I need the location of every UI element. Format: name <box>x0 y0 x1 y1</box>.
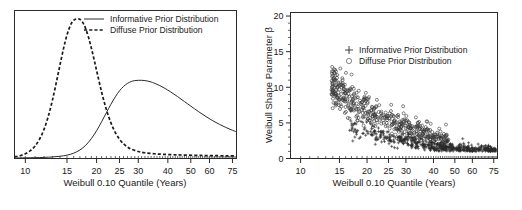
x-tick-label: 20 <box>92 166 102 176</box>
scatter-point-diffuse <box>331 107 334 110</box>
x-tick-label: 30 <box>133 166 143 176</box>
scatter-point-diffuse <box>346 116 349 119</box>
prior-density-svg: 101520253040506075 Informative Prior Dis… <box>0 0 261 210</box>
scatter-point-diffuse <box>341 77 344 80</box>
scatter-point-informative <box>383 140 386 143</box>
prior-density-panel: 101520253040506075 Informative Prior Dis… <box>0 0 261 210</box>
scatter-point-diffuse <box>362 124 365 127</box>
scatter-point-diffuse <box>375 98 378 101</box>
scatter-point-diffuse <box>394 133 397 136</box>
scatter-point-informative <box>390 145 393 148</box>
scatter-point-diffuse <box>364 91 367 94</box>
x-tick-label: 50 <box>450 166 460 176</box>
scatter-point-diffuse <box>344 71 347 74</box>
scatter-point-diffuse <box>390 103 393 106</box>
scatter-point-informative <box>374 143 377 146</box>
figure-container: 101520253040506075 Informative Prior Dis… <box>0 0 522 210</box>
scatter-point-diffuse <box>444 123 447 126</box>
scatter-point-diffuse <box>439 130 442 133</box>
scatter-point-informative <box>366 132 369 135</box>
x-tick-label: 40 <box>163 166 173 176</box>
y-tick-label: 0 <box>278 154 283 164</box>
scatter-point-informative <box>353 136 356 139</box>
legend-plus-swatch <box>345 46 353 54</box>
scatter-point-diffuse <box>348 95 351 98</box>
legend-label-informative: Informative Prior Distribution <box>110 14 219 24</box>
y-tick-label: 20 <box>273 11 283 21</box>
scatter-point-diffuse <box>405 114 408 117</box>
scatter-point-informative <box>377 127 380 130</box>
scatter-point-diffuse <box>389 110 392 113</box>
legend-label-diffuse: Diffuse Prior Distribution <box>110 25 203 35</box>
scatter-point-diffuse <box>339 67 342 70</box>
diffuse-prior-curve <box>15 19 237 157</box>
scatter-point-diffuse <box>355 102 358 105</box>
scatter-point-informative <box>477 143 480 146</box>
y-tick-label: 10 <box>273 83 283 93</box>
scatter-point-diffuse <box>431 131 434 134</box>
scatter-point-informative <box>461 137 464 140</box>
scatter-point-informative <box>462 142 465 145</box>
x-tick-label: 15 <box>334 166 344 176</box>
scatter-point-informative <box>377 130 380 133</box>
x-tick-label: 10 <box>20 166 30 176</box>
x-tick-label: 50 <box>186 166 196 176</box>
x-tick-label: 75 <box>227 166 237 176</box>
x-tick-label: 25 <box>115 166 125 176</box>
scatter-point-informative <box>370 127 373 130</box>
legend-label-diffuse: Diffuse Prior Distribution <box>359 56 452 66</box>
scatter-point-diffuse <box>350 73 353 76</box>
y-axis-title-right: Weibull Shape Parameter β <box>263 26 274 143</box>
scatter-point-informative <box>365 121 368 124</box>
scatter-point-informative <box>351 139 354 142</box>
x-tick-label: 10 <box>296 166 306 176</box>
scatter-point-informative <box>355 133 358 136</box>
posterior-scatter-panel: 10152025304050607505101520 Informative P… <box>261 0 522 210</box>
scatter-point-diffuse <box>357 111 360 114</box>
scatter-point-informative <box>396 147 399 150</box>
scatter-point-informative <box>362 132 365 135</box>
scatter-point-diffuse <box>331 65 334 68</box>
scatter-point-diffuse <box>402 112 405 115</box>
scatter-point-informative <box>393 146 396 149</box>
scatter-point-diffuse <box>340 93 343 96</box>
scatter-point-diffuse <box>338 88 341 91</box>
x-tick-label: 20 <box>362 166 372 176</box>
scatter-point-diffuse <box>335 76 338 79</box>
x-axis-title-left: Weibull 0.10 Quantile (Years) <box>63 177 186 188</box>
scatter-point-diffuse <box>438 127 441 130</box>
scatter-point-diffuse <box>344 105 347 108</box>
x-tick-label: 60 <box>467 166 477 176</box>
y-tick-label: 5 <box>278 118 283 128</box>
scatter-point-diffuse <box>384 111 387 114</box>
scatter-point-informative <box>380 140 383 143</box>
scatter-point-diffuse <box>339 108 342 111</box>
scatter-point-diffuse <box>421 124 424 127</box>
scatter-point-diffuse <box>403 130 406 133</box>
scatter-point-diffuse <box>414 116 417 119</box>
scatter-point-diffuse <box>378 104 381 107</box>
scatter-point-diffuse <box>388 127 391 130</box>
x-tick-label: 30 <box>401 166 411 176</box>
scatter-point-cloud <box>330 65 497 152</box>
x-tick-label: 15 <box>62 166 72 176</box>
legend-left: Informative Prior Distribution Diffuse P… <box>84 14 219 35</box>
x-axis-title-right: Weibull 0.10 Quantile (Years) <box>332 177 455 188</box>
posterior-scatter-svg: 10152025304050607505101520 Informative P… <box>261 0 522 210</box>
legend-right: Informative Prior Distribution Diffuse P… <box>345 45 468 66</box>
legend-label-informative: Informative Prior Distribution <box>359 45 468 55</box>
scatter-point-diffuse <box>402 105 405 108</box>
scatter-point-informative <box>370 133 373 136</box>
scatter-point-informative <box>392 140 395 143</box>
scatter-point-diffuse <box>331 97 334 100</box>
x-tick-label: 75 <box>489 166 499 176</box>
x-tick-label: 60 <box>205 166 215 176</box>
scatter-point-diffuse <box>436 131 439 134</box>
x-tick-label: 25 <box>383 166 393 176</box>
scatter-point-informative <box>467 141 470 144</box>
legend-circle-swatch <box>346 58 351 63</box>
scatter-point-informative <box>364 134 367 137</box>
scatter-point-informative <box>393 141 396 144</box>
y-tick-label: 15 <box>273 47 283 57</box>
scatter-point-diffuse <box>429 122 432 125</box>
